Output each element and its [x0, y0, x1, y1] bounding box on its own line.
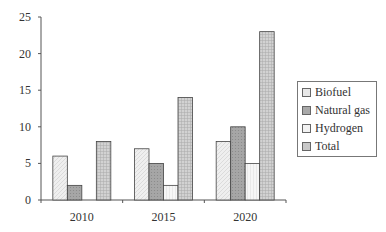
bars: [53, 32, 274, 200]
y-tick-label: 25: [19, 10, 31, 24]
y-tick-label: 10: [19, 120, 31, 134]
bar: [53, 156, 67, 200]
y-tick-label: 0: [25, 193, 31, 207]
bar: [216, 141, 231, 200]
y-tick-label: 5: [25, 156, 31, 170]
bar: [135, 149, 150, 200]
y-tick-label: 20: [19, 47, 31, 61]
y-tick-label: 15: [19, 83, 31, 97]
legend-label: Hydrogen: [315, 121, 363, 136]
x-tick-label: 2020: [233, 210, 257, 224]
x-tick-label: 2010: [70, 210, 94, 224]
legend-label: Total: [315, 139, 340, 154]
bar: [67, 185, 82, 200]
legend-label: Natural gas: [315, 103, 370, 118]
bar: [96, 141, 111, 200]
legend-item: Biofuel: [298, 83, 376, 101]
bar: [245, 163, 260, 200]
legend-item: Natural gas: [298, 101, 376, 119]
legend-label: Biofuel: [315, 85, 351, 100]
legend-item: Total: [298, 137, 376, 155]
legend-swatch-icon: [302, 88, 311, 97]
bar: [260, 32, 275, 200]
x-tick-label: 2015: [152, 210, 176, 224]
bar: [164, 185, 179, 200]
legend-swatch-icon: [302, 142, 311, 151]
bar: [178, 98, 193, 200]
legend: BiofuelNatural gasHydrogenTotal: [297, 81, 377, 157]
legend-item: Hydrogen: [298, 119, 376, 137]
legend-swatch-icon: [302, 106, 311, 115]
bar: [149, 163, 164, 200]
bar: [231, 127, 246, 200]
legend-swatch-icon: [302, 124, 311, 133]
